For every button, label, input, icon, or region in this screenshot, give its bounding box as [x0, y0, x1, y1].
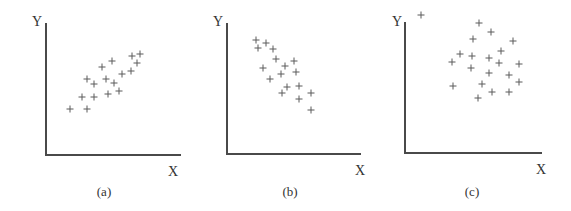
- plus-marker-icon: [109, 58, 116, 65]
- plus-marker-icon: [260, 65, 267, 72]
- plus-marker-icon: [111, 80, 118, 87]
- plus-marker-icon: [296, 96, 303, 103]
- plus-marker-icon: [79, 94, 86, 101]
- plus-marker-icon: [84, 106, 91, 113]
- plus-marker-icon: [496, 60, 503, 67]
- plus-marker-icon: [488, 29, 495, 36]
- plus-marker-icon: [270, 46, 277, 53]
- plus-marker-icon: [105, 91, 112, 98]
- plus-marker-icon: [308, 107, 315, 114]
- plus-marker-icon: [279, 90, 286, 97]
- scatter-plot-figure: YX(a)YX(b)YX(c): [0, 0, 571, 211]
- plus-marker-icon: [449, 59, 456, 66]
- plus-marker-icon: [506, 89, 513, 96]
- plus-marker-icon: [91, 94, 98, 101]
- plus-marker-icon: [291, 58, 298, 65]
- plus-marker-icon: [282, 63, 289, 70]
- plus-marker-icon: [475, 95, 482, 102]
- plus-marker-icon: [308, 90, 315, 97]
- y-axis-label: Y: [32, 14, 42, 29]
- y-axis-label: Y: [213, 14, 223, 29]
- axes: [227, 23, 361, 154]
- axes: [46, 23, 181, 155]
- plus-marker-icon: [134, 60, 141, 67]
- plus-marker-icon: [103, 76, 110, 83]
- x-axis-label: X: [168, 164, 178, 179]
- plus-marker-icon: [510, 38, 517, 45]
- plot-caption: (a): [97, 184, 111, 199]
- plus-marker-icon: [479, 81, 486, 88]
- plus-marker-icon: [116, 88, 123, 95]
- plus-marker-icon: [489, 89, 496, 96]
- plus-marker-icon: [273, 56, 280, 63]
- plus-marker-icon: [450, 83, 457, 90]
- scatter-plot-c: YX(c): [392, 12, 546, 200]
- plus-marker-icon: [468, 65, 475, 72]
- plus-marker-icon: [296, 83, 303, 90]
- plus-marker-icon: [255, 45, 262, 52]
- plus-marker-icon: [119, 71, 126, 78]
- plus-marker-icon: [129, 53, 136, 60]
- plot-caption: (b): [282, 184, 297, 199]
- scatter-plot-b: YX(b): [213, 14, 365, 199]
- plus-marker-icon: [263, 40, 270, 47]
- scatter-plot-a: YX(a): [32, 14, 181, 199]
- plus-marker-icon: [278, 71, 285, 78]
- plus-marker-icon: [469, 53, 476, 60]
- plus-marker-icon: [506, 72, 513, 79]
- plus-marker-icon: [516, 79, 523, 86]
- x-axis-label: X: [355, 163, 365, 178]
- plus-marker-icon: [486, 55, 493, 62]
- plus-marker-icon: [476, 20, 483, 27]
- plus-marker-icon: [128, 68, 135, 75]
- plus-marker-icon: [137, 51, 144, 58]
- plus-marker-icon: [91, 81, 98, 88]
- plus-marker-icon: [498, 48, 505, 55]
- x-axis-label: X: [536, 162, 546, 177]
- plus-marker-icon: [67, 106, 74, 113]
- plot-caption: (c): [465, 184, 479, 199]
- plus-marker-icon: [253, 37, 260, 44]
- plus-marker-icon: [284, 84, 291, 91]
- plus-marker-icon: [516, 61, 523, 68]
- plus-marker-icon: [293, 69, 300, 76]
- plus-marker-icon: [418, 12, 425, 19]
- plus-marker-icon: [99, 64, 106, 71]
- plus-marker-icon: [486, 70, 493, 77]
- plus-marker-icon: [457, 51, 464, 58]
- plus-marker-icon: [470, 36, 477, 43]
- y-axis-label: Y: [392, 14, 402, 29]
- plus-marker-icon: [84, 76, 91, 83]
- plus-marker-icon: [267, 76, 274, 83]
